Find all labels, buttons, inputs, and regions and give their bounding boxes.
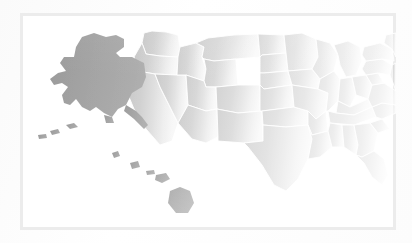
map-canvas <box>20 13 396 230</box>
state-alaska-aleutians-3[interactable] <box>38 134 47 139</box>
state-virginia[interactable] <box>368 83 396 107</box>
state-minnesota[interactable] <box>284 33 318 71</box>
us-map-svg <box>20 13 396 230</box>
mainland-states-group <box>122 31 396 191</box>
state-washington[interactable] <box>142 31 180 57</box>
state-colorado[interactable] <box>216 85 262 113</box>
state-montana[interactable] <box>196 34 260 61</box>
state-wyoming[interactable] <box>204 59 238 87</box>
state-pennsylvania[interactable] <box>362 59 392 75</box>
state-hawaii-oahu[interactable] <box>130 161 140 169</box>
state-michigan[interactable] <box>334 41 362 77</box>
state-oklahoma[interactable] <box>262 107 308 127</box>
state-idaho[interactable] <box>177 43 206 81</box>
state-south-dakota[interactable] <box>260 53 288 73</box>
state-hawaii-bigisland[interactable] <box>168 187 194 213</box>
state-hawaii-maui[interactable] <box>155 173 170 183</box>
state-kansas[interactable] <box>260 85 294 111</box>
us-map-visualization <box>0 0 412 243</box>
state-new-mexico[interactable] <box>217 109 263 143</box>
state-hawaii-molokai[interactable] <box>146 170 155 175</box>
state-alaska-aleutians-2[interactable] <box>50 129 60 135</box>
state-hawaii-kauai[interactable] <box>112 151 120 158</box>
state-alaska-aleutians-1[interactable] <box>66 123 78 129</box>
